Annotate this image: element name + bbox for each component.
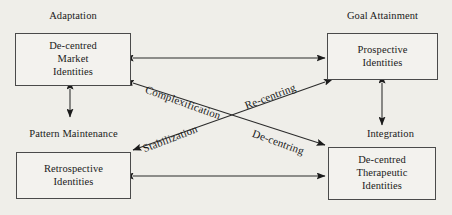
node-retrospective-identities: Retrospective Identities — [16, 152, 131, 199]
node-line: Retrospective — [44, 163, 103, 176]
node-de-centred-market-identities: De-centred Market Identities — [15, 33, 131, 86]
node-de-centred-therapeutic-identities: De-centred Therapeutic Identities — [328, 147, 436, 200]
node-line: Identities — [53, 176, 93, 189]
node-line: Identities — [362, 57, 402, 70]
function-label-integration: Integration — [341, 128, 440, 139]
node-line: Identities — [362, 180, 402, 193]
function-label-pattern-maintenance: Pattern Maintenance — [8, 128, 139, 139]
function-label-goal-attainment: Goal Attainment — [327, 10, 438, 21]
node-line: De-centred — [358, 154, 406, 167]
node-line: De-centred — [49, 40, 97, 53]
node-line: Market — [58, 53, 89, 66]
function-label-adaptation: Adaptation — [15, 10, 131, 21]
node-line: Therapeutic — [356, 167, 407, 180]
node-line: Prospective — [357, 44, 407, 57]
node-line: Identities — [53, 66, 93, 79]
node-prospective-identities: Prospective Identities — [327, 33, 438, 80]
